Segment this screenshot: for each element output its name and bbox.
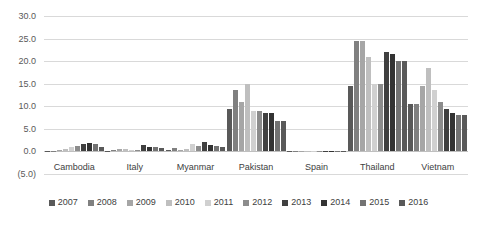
bar-slot	[420, 16, 425, 174]
category-label: Spain	[286, 160, 347, 176]
legend-item-2015[interactable]: 2015	[360, 198, 389, 207]
legend-label: 2016	[408, 198, 428, 207]
bar-slot	[450, 16, 455, 174]
y-tick-label: 0.0	[23, 147, 36, 156]
bar	[117, 149, 122, 152]
bar	[354, 41, 359, 152]
bar-slot	[196, 16, 201, 174]
bar	[75, 146, 80, 152]
bar-slot	[117, 16, 122, 174]
legend-swatch-icon	[205, 200, 211, 206]
bar-slot	[51, 16, 56, 174]
bar	[105, 151, 110, 152]
bar-slot	[462, 16, 467, 174]
bar-slot	[147, 16, 152, 174]
bar-slot	[444, 16, 449, 174]
bar-cluster	[407, 16, 468, 174]
bar	[426, 68, 431, 152]
bar	[57, 150, 62, 152]
bar-clusters	[44, 16, 468, 174]
bar	[147, 147, 152, 152]
bar-slot	[323, 16, 328, 174]
category-label: Thailand	[347, 160, 408, 176]
bar	[111, 150, 116, 151]
bar	[220, 147, 225, 151]
bar-slot	[317, 16, 322, 174]
bar-group	[226, 16, 287, 174]
legend-label: 2010	[175, 198, 195, 207]
category-label: Vietnam	[407, 160, 468, 176]
bar-slot	[63, 16, 68, 174]
legend-item-2016[interactable]: 2016	[399, 198, 428, 207]
legend-label: 2013	[291, 198, 311, 207]
legend-swatch-icon	[360, 200, 366, 206]
bar	[269, 113, 274, 151]
bar-group	[165, 16, 226, 174]
bar-slot	[372, 16, 377, 174]
bar-group	[286, 16, 347, 174]
category-label: Italy	[105, 160, 166, 176]
bar-slot	[111, 16, 116, 174]
bar	[196, 146, 201, 151]
bar	[287, 151, 292, 152]
bar-group	[105, 16, 166, 174]
bar	[99, 147, 104, 151]
bar-cluster	[226, 16, 287, 174]
legend-item-2011[interactable]: 2011	[205, 198, 233, 207]
legend-label: 2014	[330, 198, 350, 207]
bar	[233, 90, 238, 151]
bar-slot	[69, 16, 74, 174]
bar	[456, 115, 461, 151]
bar	[45, 151, 50, 152]
bar	[402, 61, 407, 151]
legend-item-2007[interactable]: 2007	[49, 198, 78, 207]
bar-slot	[123, 16, 128, 174]
legend-swatch-icon	[49, 200, 55, 206]
legend-item-2009[interactable]: 2009	[127, 198, 156, 207]
bar-slot	[159, 16, 164, 174]
bar	[372, 84, 377, 152]
y-tick-label: 30.0	[18, 12, 36, 21]
bar-slot	[275, 16, 280, 174]
bar-slot	[45, 16, 50, 174]
bar-slot	[105, 16, 110, 174]
bar-slot	[329, 16, 334, 174]
y-tick-label: 20.0	[18, 57, 36, 66]
legend-swatch-icon	[166, 200, 172, 206]
bar	[390, 54, 395, 151]
bar-chart: 30.025.020.015.010.05.00.0(5.0) Cambodia…	[0, 0, 477, 226]
legend-swatch-icon	[127, 200, 133, 206]
bar	[63, 149, 68, 152]
bar	[257, 111, 262, 152]
category-label: Myanmar	[165, 160, 226, 176]
bar	[341, 151, 346, 152]
bar	[93, 144, 98, 152]
legend-item-2014[interactable]: 2014	[321, 198, 350, 207]
bar	[190, 144, 195, 151]
legend-item-2013[interactable]: 2013	[282, 198, 311, 207]
legend-item-2010[interactable]: 2010	[166, 198, 195, 207]
y-tick-label: 5.0	[23, 124, 36, 133]
bar-cluster	[286, 16, 347, 174]
bar-slot	[57, 16, 62, 174]
bar	[281, 121, 286, 152]
bar-slot	[81, 16, 86, 174]
bar	[450, 113, 455, 151]
legend-item-2012[interactable]: 2012	[243, 198, 272, 207]
bar-slot	[305, 16, 310, 174]
bar-group	[44, 16, 105, 174]
bar-slot	[299, 16, 304, 174]
bar-slot	[87, 16, 92, 174]
legend-swatch-icon	[243, 200, 249, 206]
legend-label: 2008	[97, 198, 117, 207]
bar	[329, 151, 334, 152]
legend-label: 2009	[136, 198, 156, 207]
x-axis-category-labels: CambodiaItalyMyanmarPakistanSpainThailan…	[44, 160, 468, 176]
legend-item-2008[interactable]: 2008	[88, 198, 117, 207]
bar	[172, 148, 177, 152]
bar-cluster	[44, 16, 105, 174]
bar	[293, 151, 298, 152]
bar-slot	[153, 16, 158, 174]
bar-slot	[287, 16, 292, 174]
bar	[378, 84, 383, 152]
